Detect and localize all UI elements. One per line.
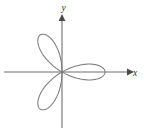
y-axis-label: y (60, 3, 66, 13)
rose-curve-figure: x y (0, 0, 144, 137)
x-axis-label: x (132, 68, 138, 78)
plot-canvas: x y (0, 0, 144, 137)
y-axis-arrowhead (59, 14, 66, 21)
